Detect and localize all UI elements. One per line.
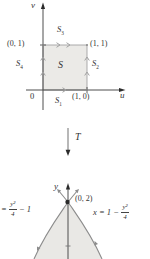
point-label-1-0: (1, 0) xyxy=(72,93,89,101)
point-label-1-1: (1, 1) xyxy=(90,40,107,48)
origin-label: 0 xyxy=(30,92,34,101)
v-axis-arrowhead-icon xyxy=(41,3,45,10)
corner-dot-01 xyxy=(42,44,44,46)
left-equation-prefix: = xyxy=(1,205,7,214)
y-axis-label: y xyxy=(54,182,58,191)
region-s-label: S xyxy=(58,60,63,70)
right-fraction-denominator: 4 xyxy=(123,213,127,221)
side-label-s4: S4 xyxy=(16,59,23,70)
right-fraction-numerator: y² xyxy=(121,204,129,213)
vertex-point-dot xyxy=(65,200,69,204)
y-axis-arrowhead-icon xyxy=(66,183,70,190)
right-equation-prefix: x = 1 − xyxy=(93,208,119,217)
corner-dot-11 xyxy=(86,44,88,46)
change-of-variables-figure: v u (0, 1) (1, 1) (1, 0) 0 S S1 S2 S3 S4… xyxy=(0,0,150,259)
transform-t-label: T xyxy=(75,132,81,142)
side-s2-sub: 2 xyxy=(96,64,99,70)
side-label-s1: S1 xyxy=(55,96,62,107)
left-equation-fraction: y² 4 xyxy=(9,201,17,218)
left-curve-equation: = y² 4 − 1 xyxy=(1,201,31,218)
left-equation-suffix: − 1 xyxy=(19,205,31,214)
left-fraction-numerator: y² xyxy=(9,201,17,210)
point-label-0-1: (0, 1) xyxy=(7,40,24,48)
left-fraction-denominator: 4 xyxy=(11,210,15,218)
side-s4-sub: 4 xyxy=(20,64,23,70)
side-s3-sub: 3 xyxy=(61,30,64,36)
right-equation-fraction: y² 4 xyxy=(121,204,129,221)
right-curve-arrowhead-icon xyxy=(95,241,99,246)
unit-square-region xyxy=(43,45,87,90)
side-s1-sub: 1 xyxy=(59,101,62,107)
point-label-0-2: (0, 2) xyxy=(75,195,92,203)
right-curve-equation: x = 1 − y² 4 xyxy=(93,204,129,221)
u-axis-label: u xyxy=(120,91,125,100)
side-label-s2: S2 xyxy=(92,59,99,70)
transform-arrowhead-icon xyxy=(66,150,71,156)
v-axis-label: v xyxy=(31,1,35,10)
side-label-s3: S3 xyxy=(57,25,64,36)
corner-dot-10 xyxy=(86,89,88,91)
